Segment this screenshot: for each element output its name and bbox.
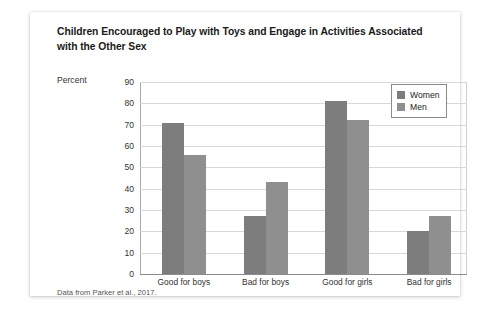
chart-title: Children Encouraged to Play with Toys an… (57, 25, 432, 54)
legend-label: Men (410, 101, 427, 113)
bar (325, 101, 347, 274)
x-axis-tick-label: Bad for boys (223, 277, 309, 287)
bar (184, 155, 206, 274)
bar (244, 216, 266, 274)
legend-item: Men (397, 101, 439, 113)
bar (429, 216, 451, 274)
y-axis-tick-label: 0 (108, 269, 134, 279)
bar (407, 231, 429, 274)
x-axis-tick-label: Bad for girls (386, 277, 472, 287)
y-axis-tick-label: 70 (108, 120, 134, 130)
chart-card: Children Encouraged to Play with Toys an… (30, 12, 460, 296)
y-axis-tick-label: 20 (108, 226, 134, 236)
y-axis-label: Percent (57, 75, 87, 85)
bar-group (244, 82, 288, 274)
y-axis-tick-label: 60 (108, 141, 134, 151)
bar (266, 182, 288, 274)
legend-label: Women (410, 89, 439, 101)
legend-swatch-icon (397, 103, 405, 111)
legend-swatch-icon (397, 91, 405, 99)
y-axis-tick-label: 80 (108, 98, 134, 108)
x-axis-tick-label: Good for boys (141, 277, 227, 287)
y-axis-tick-label: 40 (108, 184, 134, 194)
legend-item: Women (397, 89, 439, 101)
y-axis-tick-label: 30 (108, 205, 134, 215)
y-axis-tick-label: 10 (108, 248, 134, 258)
bar (162, 123, 184, 274)
bar-group (325, 82, 369, 274)
x-axis-tick-label: Good for girls (304, 277, 390, 287)
source-note: Data from Parker et al., 2017. (57, 288, 157, 297)
bar-group (162, 82, 206, 274)
x-axis-line (140, 274, 467, 275)
y-axis-tick-label: 50 (108, 162, 134, 172)
chart-legend: WomenMen (391, 84, 447, 118)
y-axis-tick-label: 90 (108, 77, 134, 87)
bar (347, 120, 369, 274)
